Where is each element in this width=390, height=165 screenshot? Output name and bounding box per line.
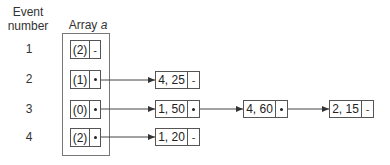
pointer-dot-icon [94,136,97,139]
pointer-dot-icon [94,108,97,111]
node-value: 1, 20 [156,129,188,145]
array-index-label: (2) [71,41,90,58]
pointer-dot [188,101,199,117]
null-pointer: - [188,72,199,88]
array-cell-event-4: (2) [70,128,101,147]
pointer-dot-icon [192,108,195,111]
list-node-4-25: 4, 25 - [155,71,200,89]
pointer-dot-icon [280,108,283,111]
array-index-label: (1) [71,71,90,88]
null-pointer: - [188,129,199,145]
node-value: 4, 60 [244,101,276,117]
array-cell-event-3: (0) [70,100,101,119]
array-index-label: (2) [71,129,90,146]
list-node-1-20: 1, 20 - [155,128,200,146]
array-index-label: (0) [71,101,90,118]
array-cell-event-2: (1) [70,70,101,89]
null-pointer: - [90,41,100,58]
list-node-4-60: 4, 60 [243,100,288,118]
node-value: 1, 50 [156,101,188,117]
list-node-2-15: 2, 15 - [329,100,374,118]
pointer-dot [90,129,100,146]
node-value: 2, 15 [330,101,362,117]
list-node-1-50: 1, 50 [155,100,200,118]
node-value: 4, 25 [156,72,188,88]
array-cell-event-1: (2) - [70,40,101,59]
pointer-dot [90,71,100,88]
pointer-dot [90,101,100,118]
pointer-dot-icon [94,78,97,81]
pointer-dot [276,101,287,117]
null-pointer: - [362,101,373,117]
